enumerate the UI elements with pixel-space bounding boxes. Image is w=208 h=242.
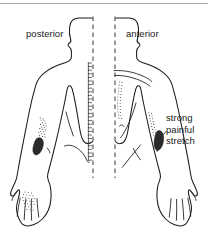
label-posterior: posterior — [26, 29, 63, 40]
label-strong-painful-stretch: strong painful stretch — [166, 112, 208, 147]
posterior-body-outline — [11, 18, 93, 226]
posterior-scapula-line — [66, 112, 73, 136]
stretch-label-line-1: strong — [166, 112, 208, 124]
posterior-iliac-curve — [65, 145, 90, 162]
anterior-inguinal-right — [133, 148, 140, 159]
stretch-label-line-3: stretch — [166, 135, 208, 147]
stretch-label-line-2: painful — [166, 124, 208, 136]
anatomical-figure-panel: posterior anterior strong painful stretc… — [0, 0, 208, 242]
label-anterior: anterior — [126, 29, 159, 40]
posterior-figure — [11, 17, 93, 226]
